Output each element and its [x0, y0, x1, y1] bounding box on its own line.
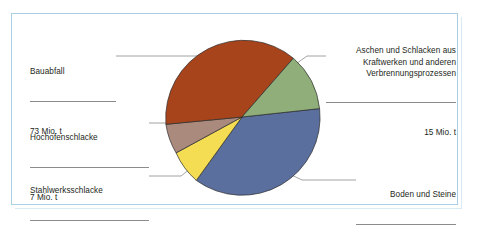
callout-aschen-und-schlacken: Aschen und Schlacken aus Kraftwerken und…	[326, 23, 456, 161]
pie-chart-figure: Bauabfall 73 Mio. t Hochofenschlacke 7 M…	[0, 0, 484, 228]
callout-aschen-und-schlacken-name: Aschen und Schlacken aus Kraftwerken und…	[326, 45, 456, 80]
callout-boden-und-steine: Boden und Steine 100 Mio. t	[356, 167, 456, 228]
callout-aschen-und-schlacken-value: 15 Mio. t	[326, 126, 456, 139]
callout-stahlwerksschlacke-name: Stahlwerksschlacke	[30, 185, 149, 197]
callout-boden-und-steine-rule	[356, 224, 456, 225]
callout-bauabfall-rule	[30, 101, 116, 102]
callout-boden-und-steine-name: Boden und Steine	[356, 189, 456, 201]
pie-slices	[166, 40, 320, 195]
callout-stahlwerksschlacke: Stahlwerksschlacke 6 Mio. t	[30, 163, 149, 228]
callout-aschen-und-schlacken-rule	[326, 102, 456, 103]
callout-stahlwerksschlacke-rule	[30, 220, 149, 221]
callout-hochofenschlacke-name: Hochofenschlacke	[30, 132, 149, 144]
callout-bauabfall-name: Bauabfall	[30, 66, 116, 78]
